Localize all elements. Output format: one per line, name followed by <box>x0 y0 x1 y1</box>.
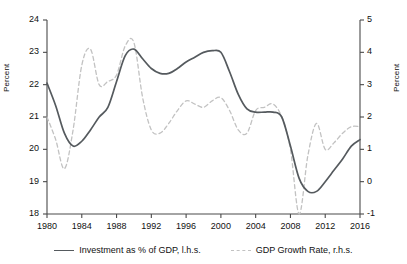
legend-swatch-solid-icon <box>54 250 74 251</box>
y-tick-label-right: 5 <box>367 14 387 24</box>
legend-label-gdp-growth: GDP Growth Rate, r.h.s. <box>256 245 353 255</box>
y-tick-label-right: -1 <box>367 208 387 218</box>
x-tick-label: 2004 <box>239 221 273 231</box>
y-tick-label-left: 22 <box>19 79 39 89</box>
y-tick-label-right: 1 <box>367 143 387 153</box>
y-tick-label-right: 4 <box>367 46 387 56</box>
x-tick-label: 1988 <box>100 221 134 231</box>
y-tick-label-left: 23 <box>19 46 39 56</box>
x-tick-label: 1996 <box>169 221 203 231</box>
y-tick-label-left: 21 <box>19 111 39 121</box>
legend-swatch-dashed-icon <box>231 250 251 251</box>
legend-item-gdp-growth: GDP Growth Rate, r.h.s. <box>231 245 353 255</box>
y-tick-label-left: 20 <box>19 143 39 153</box>
x-tick-label: 2000 <box>204 221 238 231</box>
chart-figure: Percent Percent 18192021222324-101234519… <box>0 0 407 264</box>
legend-label-investment: Investment as % of GDP, l.h.s. <box>79 245 200 255</box>
y-tick-label-right: 0 <box>367 176 387 186</box>
y-tick-label-left: 24 <box>19 14 39 24</box>
y-tick-label-right: 3 <box>367 79 387 89</box>
legend-item-investment: Investment as % of GDP, l.h.s. <box>54 245 200 255</box>
chart-legend: Investment as % of GDP, l.h.s. GDP Growt… <box>0 240 407 260</box>
x-tick-label: 2012 <box>308 221 342 231</box>
y-tick-label-right: 2 <box>367 111 387 121</box>
x-tick-label: 2016 <box>343 221 377 231</box>
x-tick-label: 1984 <box>65 221 99 231</box>
x-tick-label: 1992 <box>134 221 168 231</box>
y-tick-label-left: 19 <box>19 176 39 186</box>
x-tick-label: 2008 <box>273 221 307 231</box>
series-line-investment <box>47 49 360 193</box>
x-tick-label: 1980 <box>30 221 64 231</box>
y-tick-label-left: 18 <box>19 208 39 218</box>
